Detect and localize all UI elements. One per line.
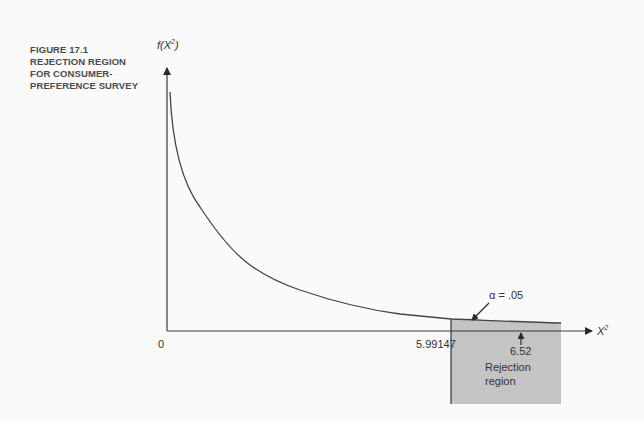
rejection-label-line: Rejection	[485, 360, 531, 374]
alpha-label: α = .05	[489, 289, 523, 301]
y-axis-label: f(X2)	[157, 38, 179, 51]
observed-value-label: 6.52	[510, 345, 531, 357]
critical-value-label: 5.99147	[416, 338, 456, 350]
origin-label: 0	[158, 338, 164, 350]
x-axis-label: X2	[597, 324, 608, 337]
rejection-region-label: Rejection region	[485, 360, 531, 388]
rejection-label-line: region	[485, 374, 531, 388]
chart-canvas	[0, 0, 644, 421]
alpha-arrow	[472, 303, 489, 320]
